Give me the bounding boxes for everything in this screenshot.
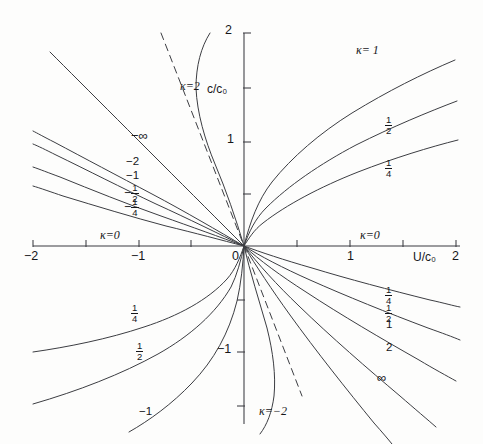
curve-kappa-2-upper-left xyxy=(196,33,244,246)
frac-num: 1 xyxy=(385,285,392,295)
annotation-minus-1-lower-left: −1 xyxy=(139,406,152,418)
curve-kappa-1-lower-right xyxy=(244,246,456,381)
frac-den: 4 xyxy=(131,207,138,218)
annotation-kappa-zero-left: κ=0 xyxy=(100,229,120,241)
annotation-kappa-1: κ= 1 xyxy=(356,44,379,56)
frac-num: 1 xyxy=(136,341,143,351)
frac-num: 1 xyxy=(385,158,392,168)
curve-kappa-half-upper-right xyxy=(244,101,457,246)
annotation-minus-quarter-upper-left: −14 xyxy=(124,197,139,217)
frac-den: 2 xyxy=(136,351,143,362)
frac-num: 1 xyxy=(131,183,138,193)
kappa-family-plot: 2 1 −1 c/c₀ −2 −1 0 1 2 U/c₀ κ=0 κ=0 κ= … xyxy=(0,0,483,444)
annotation-kappa-zero-right: κ=0 xyxy=(360,229,380,241)
x-axis-label: U/c₀ xyxy=(413,251,436,263)
annotation-half-lower-left: 12 xyxy=(136,341,143,361)
y-tick-label-1: 1 xyxy=(227,133,234,146)
annotation-kappa-2: κ=2 xyxy=(180,80,200,92)
frac-den: 4 xyxy=(385,168,392,179)
plot-canvas xyxy=(0,0,483,444)
frac-num: 1 xyxy=(385,115,392,125)
curve-kappa-quarter-upper-right xyxy=(244,140,458,246)
curve-kappa-2-lower-right xyxy=(244,246,436,427)
curves-group xyxy=(33,33,460,444)
annotation-kappa-minus-2: κ=−2 xyxy=(259,405,287,417)
y-tick-label--1: −1 xyxy=(217,343,231,356)
curve-kappa-half-lower-left xyxy=(33,246,244,404)
x-tick-label--2: −2 xyxy=(24,250,38,263)
annotation-minus-infinity-upper-left: −∞ xyxy=(131,129,148,142)
axes-group xyxy=(33,33,460,424)
frac-num: 1 xyxy=(131,303,138,313)
frac-num: 1 xyxy=(385,303,392,313)
y-tick-label-2: 2 xyxy=(225,24,232,37)
annotation-quarter-lower-left: 14 xyxy=(131,303,138,323)
annotation-minus-1-upper-left: −1 xyxy=(126,170,139,182)
frac-den: 2 xyxy=(385,125,392,136)
x-tick-label-0: 0 xyxy=(232,250,239,263)
frac-den: 4 xyxy=(131,313,138,324)
x-tick-label--1: −1 xyxy=(131,250,145,263)
x-tick-label-2: 2 xyxy=(452,250,459,263)
annotation-minus-2-upper-left: −2 xyxy=(126,156,139,168)
annotation-half-upper-right: 12 xyxy=(385,115,392,135)
y-axis-label: c/c₀ xyxy=(207,83,227,95)
annotation-1-lower-right: 1 xyxy=(386,319,392,331)
annotation-infinity-lower-right: ∞ xyxy=(377,371,386,384)
annotation-quarter-upper-right: 14 xyxy=(385,158,392,178)
x-tick-label-1: 1 xyxy=(347,250,354,263)
annotation-2-lower-right: 2 xyxy=(386,342,392,354)
frac-num: 1 xyxy=(131,197,138,207)
curve-kappa-1-upper-right xyxy=(244,60,455,246)
